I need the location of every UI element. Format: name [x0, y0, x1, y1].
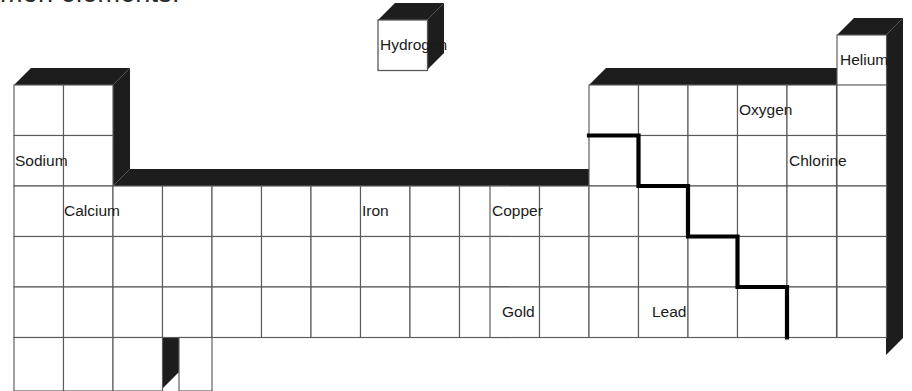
- cell-r4-c1: [14, 186, 64, 237]
- cell-r5-c12: [540, 237, 590, 288]
- label-sodium: Sodium: [15, 152, 68, 169]
- cell-r4-c17: [787, 186, 837, 237]
- cell-r7-c1: [14, 338, 64, 391]
- label-oxygen: Oxygen: [739, 101, 792, 118]
- cell-r7-c4: [179, 338, 212, 391]
- cell-r5-c18: [837, 237, 887, 288]
- cell-r6-c15: [688, 287, 738, 338]
- cell-r2-c14: [639, 85, 689, 136]
- cell-r4-c3: [113, 186, 163, 237]
- cell-r4-c18: [837, 186, 887, 237]
- cell-r7-c3: [113, 338, 163, 391]
- cell-r2-c18: [837, 85, 887, 136]
- cell-r6-c12: [540, 287, 590, 338]
- cell-r6-c1: [14, 287, 64, 338]
- label-helium: Helium: [840, 51, 888, 68]
- extrusion-top-right: [589, 68, 854, 85]
- cell-r3-c13: [589, 136, 639, 187]
- cell-r3-c2: [64, 136, 114, 187]
- cell-r5-c1: [14, 237, 64, 288]
- extrusion-top-left: [14, 68, 130, 85]
- cell-r4-c4: [163, 186, 213, 237]
- cell-r3-c16: [738, 136, 788, 187]
- label-hydrogen: Hydrogen: [380, 36, 447, 53]
- cell-r2-c17: [787, 85, 837, 136]
- label-lead: Lead: [652, 303, 686, 320]
- label-gold: Gold: [502, 303, 535, 320]
- cell-r4-c12: [540, 186, 590, 237]
- label-calcium: Calcium: [64, 202, 120, 219]
- label-iron: Iron: [362, 202, 389, 219]
- label-copper: Copper: [492, 202, 543, 219]
- cell-r2-c13: [589, 85, 639, 136]
- cell-r5-c15: [688, 237, 738, 288]
- cell-r5-c3: [113, 237, 163, 288]
- cell-r5-c8: [361, 237, 411, 288]
- cell-r5-c14: [639, 237, 689, 288]
- cell-r6-c16: [738, 287, 788, 338]
- cell-r5-c4: [163, 237, 213, 288]
- cell-r4-c13: [589, 186, 639, 237]
- cell-r3-c15: [688, 136, 738, 187]
- extrusion-side-left-tower: [113, 68, 130, 186]
- cell-r2-c2: [64, 85, 114, 136]
- cell-r6-c17: [787, 287, 837, 338]
- extrusion-bottom-notch: [162, 338, 179, 389]
- cell-r4-c9: [410, 186, 460, 237]
- cell-r5-c9: [410, 237, 460, 288]
- cell-r2-c15: [688, 85, 738, 136]
- cell-r4-c7: [311, 186, 361, 237]
- cell-r5-c6: [262, 237, 312, 288]
- cell-r6-c2: [64, 287, 114, 338]
- cell-r4-c16: [738, 186, 788, 237]
- cell-r4-c15: [688, 186, 738, 237]
- cell-r7-c2: [64, 338, 114, 391]
- cell-r2-c1: [14, 85, 64, 136]
- cell-r6-c4: [163, 287, 213, 338]
- cell-r6-c9: [410, 287, 460, 338]
- periodic-table-figure: mon elements.: [0, 0, 912, 391]
- cell-r5-c16: [738, 237, 788, 288]
- cell-r6-c5: [212, 287, 262, 338]
- periodic-table-diagram: Hydrogen Helium Sodium Calcium Iron Copp…: [0, 0, 912, 391]
- cell-r6-c3: [113, 287, 163, 338]
- cell-r6-c6: [262, 287, 312, 338]
- extrusion-top-middle: [113, 169, 606, 186]
- cell-r4-c5: [212, 186, 262, 237]
- cell-r5-c17: [787, 237, 837, 288]
- label-chlorine: Chlorine: [789, 152, 847, 169]
- cell-r4-c6: [262, 186, 312, 237]
- cell-r6-c7: [311, 287, 361, 338]
- cell-r5-c13: [589, 237, 639, 288]
- cell-r6-c18: [837, 287, 887, 338]
- cell-r6-c13: [589, 287, 639, 338]
- cell-r3-c14: [639, 136, 689, 187]
- grid-cells: [14, 35, 887, 391]
- cell-r5-c11: [490, 237, 540, 288]
- cell-r5-c5: [212, 237, 262, 288]
- cell-r4-c14: [639, 186, 689, 237]
- cell-r5-c2: [64, 237, 114, 288]
- cell-r5-c7: [311, 237, 361, 288]
- cell-r6-c8: [361, 287, 411, 338]
- extrusion-side-right: [886, 18, 903, 355]
